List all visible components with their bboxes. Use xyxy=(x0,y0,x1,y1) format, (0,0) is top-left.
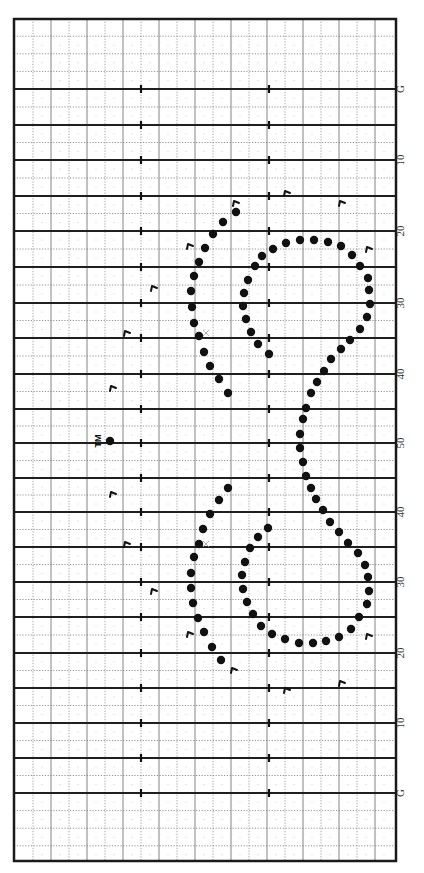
grid-dot xyxy=(132,556,133,557)
grid-dot xyxy=(168,98,169,99)
grid-dot xyxy=(222,276,223,277)
grid-dot xyxy=(204,662,205,663)
grid-dot xyxy=(330,205,331,206)
grid-dot xyxy=(276,418,277,419)
grid-dot xyxy=(294,400,295,401)
grid-dot xyxy=(384,469,385,470)
grid-dot xyxy=(258,556,259,557)
grid-dot xyxy=(330,383,331,384)
grid-dot xyxy=(78,784,79,785)
grid-dot xyxy=(150,151,151,152)
grid-dot xyxy=(384,452,385,453)
performer-dot xyxy=(312,495,320,503)
grid-dot xyxy=(96,383,97,384)
grid-dot xyxy=(240,521,241,522)
grid-dot xyxy=(384,608,385,609)
grid-dot xyxy=(240,400,241,401)
grid-dot xyxy=(150,573,151,574)
grid-dot xyxy=(150,697,151,698)
performer-dot xyxy=(265,350,273,358)
grid-dot xyxy=(42,98,43,99)
grid-dot xyxy=(276,662,277,663)
grid-dot xyxy=(222,626,223,627)
grid-dot xyxy=(240,732,241,733)
grid-dot xyxy=(96,276,97,277)
performer-dot xyxy=(200,348,208,356)
grid-dot xyxy=(168,469,169,470)
grid-dot xyxy=(330,538,331,539)
grid-dot xyxy=(312,134,313,135)
performer-dot xyxy=(246,544,254,552)
grid-dot xyxy=(258,749,259,750)
grid-dot xyxy=(384,802,385,803)
performer-dot xyxy=(224,389,232,397)
grid-dot xyxy=(42,452,43,453)
grid-dot xyxy=(168,365,169,366)
field-grid-columns xyxy=(33,19,375,861)
grid-dot xyxy=(186,418,187,419)
grid-dot xyxy=(132,819,133,820)
grid-dot xyxy=(114,802,115,803)
grid-dot xyxy=(114,573,115,574)
grid-dot xyxy=(294,504,295,505)
grid-dot xyxy=(384,294,385,295)
grid-dot xyxy=(384,504,385,505)
grid-dot xyxy=(348,62,349,63)
grid-dot xyxy=(96,662,97,663)
grid-dot xyxy=(204,134,205,135)
grid-dot xyxy=(384,626,385,627)
grid-dot xyxy=(60,365,61,366)
grid-dot xyxy=(222,151,223,152)
performer-dot xyxy=(264,524,272,532)
grid-dot xyxy=(366,538,367,539)
grid-dot xyxy=(150,169,151,170)
grid-dot xyxy=(186,312,187,313)
facing-marker-icon xyxy=(339,201,345,206)
facing-marker-icon xyxy=(110,386,116,391)
grid-dot xyxy=(114,469,115,470)
grid-dot xyxy=(204,240,205,241)
grid-dot xyxy=(96,487,97,488)
performer-dot xyxy=(239,585,247,593)
grid-dot xyxy=(42,749,43,750)
grid-dot xyxy=(258,591,259,592)
grid-dot xyxy=(96,626,97,627)
grid-dot xyxy=(294,644,295,645)
grid-dot xyxy=(366,626,367,627)
grid-dot xyxy=(240,222,241,223)
grid-dot xyxy=(186,802,187,803)
grid-dot xyxy=(186,205,187,206)
performer-dot xyxy=(296,236,304,244)
grid-dot xyxy=(168,608,169,609)
grid-dot xyxy=(294,312,295,313)
grid-dot xyxy=(168,504,169,505)
grid-dot xyxy=(258,504,259,505)
grid-dot xyxy=(366,98,367,99)
performer-dot xyxy=(258,252,266,260)
grid-dot xyxy=(384,538,385,539)
grid-dot xyxy=(384,556,385,557)
grid-dot xyxy=(312,329,313,330)
grid-dot xyxy=(132,452,133,453)
grid-dot xyxy=(312,400,313,401)
grid-dot xyxy=(222,749,223,750)
grid-dot xyxy=(114,80,115,81)
grid-dot xyxy=(384,662,385,663)
grid-dot xyxy=(258,45,259,46)
grid-dot xyxy=(258,400,259,401)
grid-dot xyxy=(204,538,205,539)
performer-dot xyxy=(363,600,371,608)
grid-dot xyxy=(60,521,61,522)
grid-dot xyxy=(384,749,385,750)
grid-dot xyxy=(294,819,295,820)
grid-dot xyxy=(348,258,349,259)
grid-dot xyxy=(222,487,223,488)
grid-dot xyxy=(42,521,43,522)
grid-dot xyxy=(348,837,349,838)
grid-dot xyxy=(96,556,97,557)
grid-dot xyxy=(348,662,349,663)
grid-dot xyxy=(384,591,385,592)
grid-dot xyxy=(114,662,115,663)
grid-dot xyxy=(294,608,295,609)
grid-dot xyxy=(330,151,331,152)
